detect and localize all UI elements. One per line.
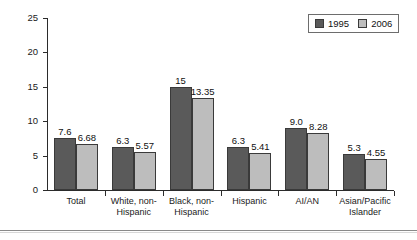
y-tick-label: 5: [33, 149, 38, 162]
legend-swatch-1995-icon: [315, 19, 324, 28]
category-label-line: Hispanic: [221, 196, 279, 207]
category-label-line: Hispanic: [105, 207, 163, 218]
category-label: Asian/PacificIslander: [336, 196, 394, 218]
category-label-line: Hispanic: [163, 207, 221, 218]
bar-group: 1513.35: [163, 18, 221, 190]
bar-value-label: 7.6: [58, 126, 71, 138]
bar-1995[interactable]: 15: [170, 87, 192, 190]
bar-value-label: 8.28: [309, 121, 328, 133]
legend-swatch-2006-icon: [358, 19, 367, 28]
y-tick-label: 25: [27, 11, 38, 24]
legend-entry-2006[interactable]: 2006: [358, 18, 392, 29]
category-label-line: AI/AN: [278, 196, 336, 207]
category-label: AI/AN: [278, 196, 336, 207]
bar-value-label: 15: [175, 75, 186, 87]
bar-2006[interactable]: 6.68: [76, 144, 98, 190]
bar-group: 5.34.55: [336, 18, 394, 190]
category-label-line: White, non-: [105, 196, 163, 207]
bar-value-label: 5.57: [135, 140, 154, 152]
plot-area: 7.66.686.35.571513.356.35.419.08.285.34.…: [47, 18, 394, 190]
category-label: Hispanic: [221, 196, 279, 207]
x-axis-end-tick: [394, 191, 395, 196]
legend: 1995 2006: [308, 14, 399, 33]
bar-2006[interactable]: 4.55: [365, 159, 387, 190]
legend-label-1995: 1995: [328, 18, 349, 29]
bar-group: 6.35.57: [105, 18, 163, 190]
bar-1995[interactable]: 9.0: [285, 128, 307, 190]
bar-1995[interactable]: 6.3: [112, 147, 134, 190]
bar-value-label: 9.0: [290, 116, 303, 128]
bar-2006[interactable]: 8.28: [307, 133, 329, 190]
bar-2006[interactable]: 13.35: [192, 98, 214, 190]
bar-value-label: 5.3: [347, 142, 360, 154]
category-label: Total: [47, 196, 105, 207]
category-label: White, non-Hispanic: [105, 196, 163, 218]
bar-1995[interactable]: 6.3: [227, 147, 249, 190]
y-tick-label: 15: [27, 80, 38, 93]
bar-value-label: 5.41: [251, 141, 270, 153]
y-tick-label: 20: [27, 45, 38, 58]
category-label-line: Black, non-: [163, 196, 221, 207]
y-tick-label: 10: [27, 114, 38, 127]
bar-chart: 0510152025 7.66.686.35.571513.356.35.419…: [0, 0, 417, 240]
bar-group: 6.35.41: [221, 18, 279, 190]
bar-2006[interactable]: 5.57: [134, 152, 156, 190]
legend-entry-1995[interactable]: 1995: [315, 18, 349, 29]
bar-1995[interactable]: 7.6: [54, 138, 76, 190]
category-label-line: Asian/Pacific: [336, 196, 394, 207]
legend-label-2006: 2006: [371, 18, 392, 29]
bar-value-label: 6.3: [116, 135, 129, 147]
bar-value-label: 4.55: [367, 147, 386, 159]
y-tick-label: 0: [33, 183, 38, 196]
bottom-divider: [0, 230, 417, 231]
bar-group: 7.66.68: [47, 18, 105, 190]
category-label-line: Total: [47, 196, 105, 207]
bar-value-label: 6.68: [78, 132, 97, 144]
y-tick-mark: [43, 190, 47, 191]
bar-2006[interactable]: 5.41: [249, 153, 271, 190]
bottom-divider-shadow: [0, 232, 417, 233]
bar-1995[interactable]: 5.3: [343, 154, 365, 190]
bar-value-label: 13.35: [191, 86, 215, 98]
bar-group: 9.08.28: [278, 18, 336, 190]
category-label-line: Islander: [336, 207, 394, 218]
category-label: Black, non-Hispanic: [163, 196, 221, 218]
bar-value-label: 6.3: [232, 135, 245, 147]
